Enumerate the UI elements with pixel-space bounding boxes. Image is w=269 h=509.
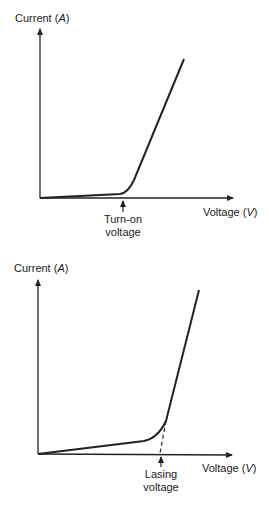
top-iv-curve [40, 59, 184, 198]
top-chart [40, 29, 233, 212]
top-y-axis-label: Current (A) [15, 12, 69, 25]
top-x-axis-label: Voltage (V) [203, 206, 257, 219]
bottom-chart [38, 280, 232, 467]
bottom-iv-curve [38, 290, 199, 454]
iv-diagrams [0, 0, 269, 509]
bottom-x-axis [38, 454, 232, 455]
bottom-x-axis-label: Voltage (V) [202, 462, 256, 475]
turn-on-voltage-label: Turn-on voltage [104, 213, 142, 239]
lasing-voltage-label: Lasing voltage [143, 468, 178, 494]
bottom-y-axis-label: Current (A) [14, 262, 68, 275]
